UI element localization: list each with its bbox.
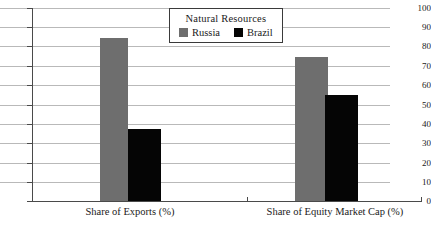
category-label-equity-market-cap: Share of Equity Market Cap (%) — [240, 206, 430, 218]
legend-title: Natural Resources — [179, 12, 273, 25]
legend-label-brazil: Brazil — [247, 27, 273, 38]
x-axis-line — [32, 201, 422, 202]
bar-brazil-equity-market-cap — [325, 95, 358, 201]
legend-item-russia: Russia — [179, 27, 220, 38]
bar-russia-equity-market-cap — [295, 57, 328, 201]
legend: Natural Resources Russia Brazil — [169, 8, 283, 43]
legend-item-brazil: Brazil — [234, 27, 273, 38]
category-label-exports: Share of Exports (%) — [55, 206, 205, 218]
legend-items: Russia Brazil — [179, 27, 273, 38]
ytick-0 — [27, 201, 32, 202]
legend-label-russia: Russia — [192, 27, 220, 38]
bar-brazil-exports — [128, 129, 161, 201]
brazil-swatch-icon — [234, 28, 243, 37]
russia-swatch-icon — [179, 28, 188, 37]
bar-russia-exports — [100, 38, 128, 201]
bar-chart: 100 90 80 70 60 50 40 30 20 10 0 Share o… — [0, 0, 431, 228]
